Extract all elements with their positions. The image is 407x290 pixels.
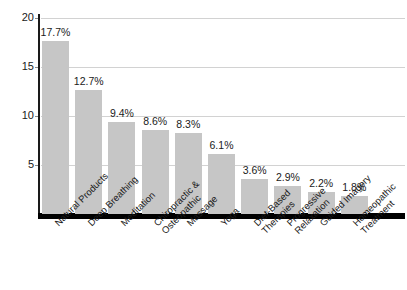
y-axis-tick-label: 5 <box>4 159 34 170</box>
bar-group[interactable]: 3.6% <box>241 14 268 214</box>
bar-group[interactable]: 17.7% <box>42 14 69 214</box>
bar[interactable] <box>42 41 69 214</box>
y-axis-line <box>38 14 40 215</box>
bar-group[interactable]: 8.6% <box>142 14 169 214</box>
y-axis-tick-label: 10 <box>4 110 34 121</box>
bar-chart: 5101520 17.7%12.7%9.4%8.6%8.3%6.1%3.6%2.… <box>0 0 407 290</box>
y-axis-tick-label: 15 <box>4 61 34 72</box>
y-axis-tick-label: 20 <box>4 12 34 23</box>
bar-group[interactable]: 6.1% <box>208 14 235 214</box>
x-axis-category-labels: Natural ProductsDeep BreathingMeditation… <box>41 219 405 290</box>
